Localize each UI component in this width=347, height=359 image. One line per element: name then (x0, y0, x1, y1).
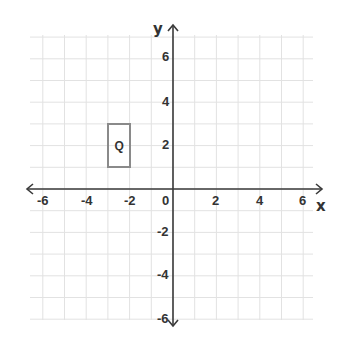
y-tick-label: 4 (162, 94, 170, 109)
x-tick-label: -4 (81, 193, 93, 208)
y-tick-label: 2 (162, 137, 169, 152)
y-tick-label: 6 (162, 49, 169, 64)
shape-q-label: Q (115, 139, 124, 153)
axes (27, 25, 322, 326)
x-tick-label: 4 (256, 193, 264, 208)
x-tick-label: 0 (162, 193, 169, 208)
y-tick-label: -2 (157, 224, 169, 239)
x-tick-labels: -6 -4 -2 0 2 4 6 (37, 193, 306, 208)
y-tick-label: -6 (157, 311, 169, 326)
x-tick-label: -2 (124, 193, 136, 208)
x-axis-label: x (316, 197, 326, 215)
x-tick-label: 2 (212, 193, 219, 208)
y-axis-label: y (153, 20, 163, 38)
grid-lines (30, 35, 313, 320)
x-tick-label: -6 (37, 193, 49, 208)
y-tick-label: -4 (157, 267, 169, 282)
y-tick-labels: 6 4 2 -2 -4 -6 (157, 49, 170, 326)
x-tick-label: 6 (299, 193, 306, 208)
coordinate-plane: y x -6 -4 -2 0 2 4 6 6 4 2 -2 -4 -6 Q (0, 0, 347, 359)
